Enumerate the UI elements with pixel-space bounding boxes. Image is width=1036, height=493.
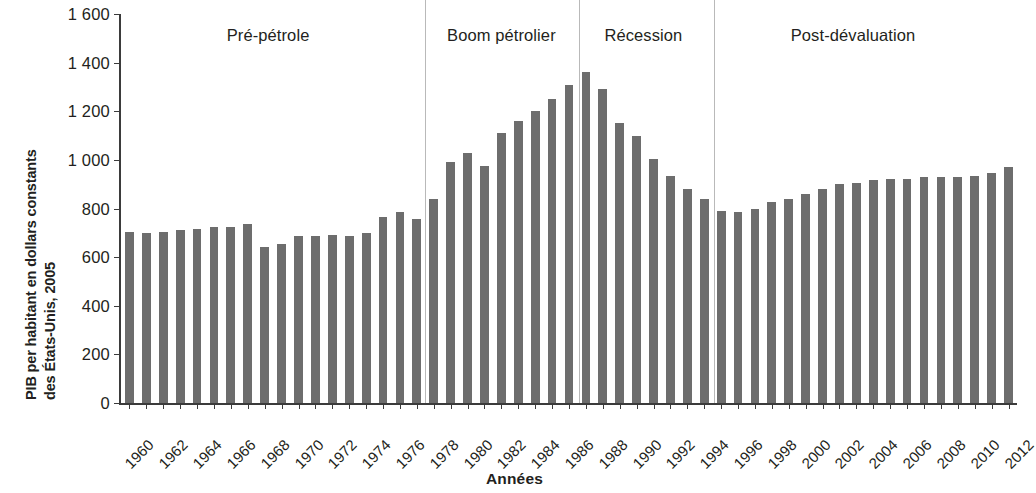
x-axis-tick [654,403,655,409]
bar [193,229,202,403]
x-axis-tick [603,403,604,409]
y-axis-tick [114,209,121,210]
bar [784,199,793,403]
bar [1004,167,1013,403]
bar [531,111,540,403]
x-axis-tick [890,403,891,409]
bar [649,159,658,403]
y-axis-tick-label: 200 [82,345,110,364]
x-axis-tick [569,403,570,409]
x-axis-tick-label: 1966 [223,436,259,472]
bar [666,176,675,403]
bar [632,136,641,403]
y-axis-tick-label: 1 600 [68,5,110,24]
y-axis-tick-label: 400 [82,296,110,315]
x-axis-tick [704,403,705,409]
bar [125,232,134,403]
x-axis-tick [738,403,739,409]
x-axis-tick-label: 1972 [324,436,360,472]
bar [429,199,438,403]
bar [751,209,760,404]
x-axis-tick [772,403,773,409]
period-label: Boom pétrolier [447,26,556,45]
period-divider [425,0,426,403]
bar [767,202,776,403]
y-axis-tick-label: 1 000 [68,150,110,169]
x-axis-tick [535,403,536,409]
x-axis-tick [755,403,756,409]
bar [328,235,337,403]
x-axis-tick-label: 1986 [561,436,597,472]
x-axis-tick [129,403,130,409]
bar [835,184,844,403]
period-label: Récession [604,26,682,45]
x-axis-tick [197,403,198,409]
y-axis-tick [114,160,121,161]
x-axis-tick-label: 2008 [933,436,969,472]
y-axis-tick [114,63,121,64]
x-axis-tick-label: 1982 [493,436,529,472]
x-axis-tick [1009,403,1010,409]
x-axis-tick [180,403,181,409]
x-axis-tick-label: 1996 [730,436,766,472]
x-axis-tick [366,403,367,409]
bar [176,230,185,403]
x-axis-tick-label: 2000 [798,436,834,472]
x-axis-tick [451,403,452,409]
x-axis-tick [637,403,638,409]
x-axis-tick [146,403,147,409]
x-axis-tick-label: 1992 [662,436,698,472]
x-axis-tick [349,403,350,409]
x-axis-tick-label: 1964 [189,436,225,472]
bar [446,162,455,403]
x-axis-tick-label: 1960 [121,436,157,472]
y-axis-tick [114,111,121,112]
bar [920,177,929,403]
bar [226,227,235,403]
x-axis-tick-label: 1990 [629,436,665,472]
x-axis-tick [670,403,671,409]
x-axis-tick [332,403,333,409]
period-label: Post-dévaluation [791,26,916,45]
x-axis-tick [552,403,553,409]
x-axis-tick [992,403,993,409]
y-axis-title-line-1: PIB per habitant en dollars constants [22,149,41,400]
bar [683,189,692,403]
x-axis-tick [468,403,469,409]
x-axis-tick-label: 1980 [460,436,496,472]
x-axis-tick [941,403,942,409]
x-axis-tick [501,403,502,409]
x-axis-tick [265,403,266,409]
x-axis-tick-label: 1962 [155,436,191,472]
x-axis-tick-label: 1968 [257,436,293,472]
x-axis-tick [975,403,976,409]
bar [463,153,472,403]
bar [277,244,286,403]
y-axis-tick [114,257,121,258]
bar [548,99,557,403]
x-axis-tick [434,403,435,409]
y-axis-tick-label: 1 200 [68,102,110,121]
x-axis-tick-label: 1978 [426,436,462,472]
period-divider [714,0,715,403]
bar [801,194,810,403]
bar [243,224,252,403]
x-axis-tick [214,403,215,409]
y-axis-title: PIB per habitant en dollars constants de… [0,0,40,415]
bar [311,236,320,403]
bar [869,180,878,403]
bar [294,236,303,403]
x-axis-tick [924,403,925,409]
x-axis-tick [315,403,316,409]
bar [987,173,996,403]
bar [903,179,912,403]
x-axis-tick-label: 2004 [865,436,901,472]
x-axis-tick [484,403,485,409]
x-axis-tick-label: 1976 [392,436,428,472]
x-axis-tick [231,403,232,409]
x-axis-tick [299,403,300,409]
x-axis-tick-label: 2010 [967,436,1003,472]
y-axis-tick-label: 600 [82,248,110,267]
x-axis-tick [586,403,587,409]
x-axis-tick [518,403,519,409]
